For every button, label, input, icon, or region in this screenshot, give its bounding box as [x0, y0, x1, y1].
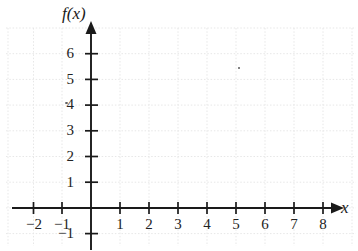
coordinate-plane-figure: f(x) x 6 5 4 3 2 1 −1 −2 −1 1 2 3 4 5 6 …	[0, 0, 358, 251]
speck-upper-right	[238, 67, 240, 69]
stray-marks	[0, 0, 358, 251]
speck-near-y4	[65, 102, 68, 104]
